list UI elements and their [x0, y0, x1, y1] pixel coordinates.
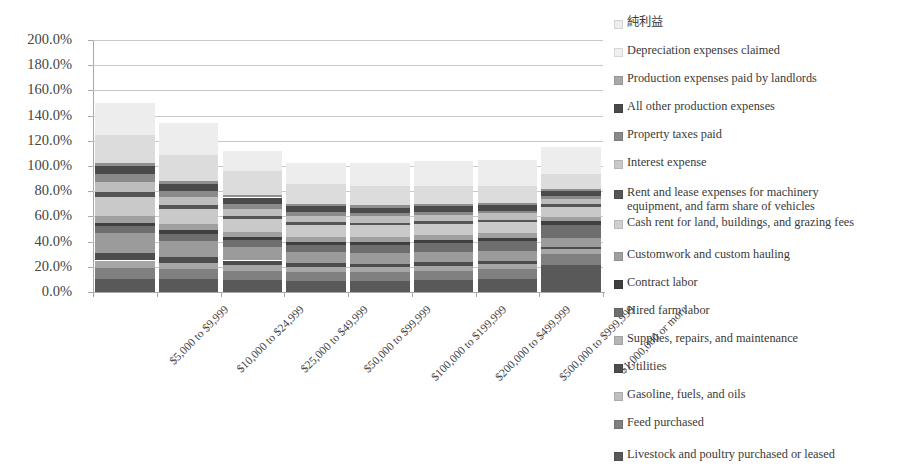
bar-stack[interactable] — [350, 40, 409, 292]
bar-stack[interactable] — [478, 40, 537, 292]
bar-segment[interactable] — [95, 233, 154, 253]
bar-segment[interactable] — [159, 191, 218, 197]
bar-segment[interactable] — [159, 205, 218, 209]
bar-segment[interactable] — [95, 216, 154, 223]
bar-segment[interactable] — [286, 252, 345, 263]
bar-segment[interactable] — [350, 253, 409, 264]
bar-segment[interactable] — [223, 216, 282, 219]
bar-segment[interactable] — [286, 206, 345, 212]
bar-segment[interactable] — [350, 264, 409, 267]
bar-segment[interactable] — [350, 186, 409, 205]
bar-segment[interactable] — [414, 262, 473, 265]
bar-segment[interactable] — [350, 213, 409, 216]
bar-segment[interactable] — [478, 269, 537, 279]
bar-segment[interactable] — [414, 224, 473, 235]
bar-segment[interactable] — [95, 253, 154, 261]
bar-segment[interactable] — [95, 103, 154, 135]
legend-item[interactable]: Utilities — [614, 360, 667, 374]
bar-segment[interactable] — [159, 279, 218, 292]
bar-segment[interactable] — [414, 266, 473, 271]
bar-segment[interactable] — [478, 211, 537, 214]
bar-segment[interactable] — [286, 272, 345, 281]
bar-segment[interactable] — [223, 280, 282, 292]
bar-segment[interactable] — [414, 161, 473, 186]
bar-stack[interactable] — [541, 40, 600, 292]
bar-segment[interactable] — [95, 261, 154, 269]
bar-segment[interactable] — [414, 204, 473, 207]
bar-segment[interactable] — [286, 184, 345, 204]
bar-segment[interactable] — [95, 197, 154, 216]
bar-segment[interactable] — [286, 237, 345, 242]
bar-segment[interactable] — [286, 212, 345, 216]
legend-item[interactable]: Supplies, repairs, and maintenance — [614, 332, 798, 346]
bar-segment[interactable] — [95, 268, 154, 279]
bar-segment[interactable] — [159, 209, 218, 224]
bar-segment[interactable] — [478, 264, 537, 269]
bar-segment[interactable] — [541, 249, 600, 253]
bar-segment[interactable] — [223, 232, 282, 238]
bar-segment[interactable] — [95, 192, 154, 197]
bar-segment[interactable] — [478, 222, 537, 233]
bar-segment[interactable] — [350, 272, 409, 281]
bar-stack[interactable] — [286, 40, 345, 292]
legend-item[interactable]: Interest expense — [614, 156, 707, 170]
legend-item[interactable]: Rent and lease expenses for machinery eq… — [614, 186, 819, 213]
bar-segment[interactable] — [286, 222, 345, 225]
bar-segment[interactable] — [350, 237, 409, 242]
bar-segment[interactable] — [159, 241, 218, 257]
bar-segment[interactable] — [159, 263, 218, 269]
bar-segment[interactable] — [541, 199, 600, 205]
bar-segment[interactable] — [286, 267, 345, 272]
bar-segment[interactable] — [414, 206, 473, 212]
bar-segment[interactable] — [286, 242, 345, 245]
legend-item[interactable]: Depreciation expenses claimed — [614, 44, 780, 58]
legend-item[interactable]: Hired farm labor — [614, 304, 710, 318]
bar-segment[interactable] — [414, 186, 473, 204]
bar-segment[interactable] — [414, 240, 473, 243]
bar-segment[interactable] — [159, 230, 218, 234]
bar-segment[interactable] — [286, 263, 345, 267]
bar-segment[interactable] — [414, 280, 473, 292]
bar-segment[interactable] — [159, 224, 218, 230]
bar-stack[interactable] — [223, 40, 282, 292]
bar-segment[interactable] — [223, 247, 282, 260]
bar-segment[interactable] — [159, 269, 218, 279]
bar-segment[interactable] — [223, 171, 282, 195]
bar-segment[interactable] — [478, 205, 537, 211]
bar-segment[interactable] — [223, 219, 282, 232]
bar-segment[interactable] — [350, 163, 409, 186]
legend-item[interactable]: Production expenses paid by landlords — [614, 72, 817, 86]
legend-item[interactable]: Property taxes paid — [614, 128, 722, 142]
bar-segment[interactable] — [478, 279, 537, 292]
bar-segment[interactable] — [414, 215, 473, 221]
bar-segment[interactable] — [95, 182, 154, 192]
bar-segment[interactable] — [159, 234, 218, 241]
bar-stack[interactable] — [159, 40, 218, 292]
bar-segment[interactable] — [350, 216, 409, 222]
bar-segment[interactable] — [541, 196, 600, 199]
bar-segment[interactable] — [286, 245, 345, 252]
legend-item[interactable]: Gasoline, fuels, and oils — [614, 388, 746, 402]
bar-segment[interactable] — [223, 261, 282, 265]
bar-segment[interactable] — [541, 174, 600, 189]
bar-segment[interactable] — [541, 189, 600, 192]
bar-segment[interactable] — [350, 245, 409, 253]
bar-segment[interactable] — [414, 243, 473, 252]
bar-segment[interactable] — [159, 123, 218, 155]
bar-segment[interactable] — [541, 191, 600, 196]
bar-segment[interactable] — [223, 265, 282, 271]
legend-item[interactable]: All other production expenses — [614, 100, 775, 114]
bar-segment[interactable] — [478, 213, 537, 219]
bar-segment[interactable] — [223, 195, 282, 198]
bar-segment[interactable] — [223, 237, 282, 240]
bar-segment[interactable] — [541, 207, 600, 217]
bar-segment[interactable] — [478, 261, 537, 264]
bar-segment[interactable] — [541, 147, 600, 173]
bar-segment[interactable] — [541, 204, 600, 207]
bar-segment[interactable] — [414, 252, 473, 262]
bar-stack[interactable] — [95, 40, 154, 292]
legend-item[interactable]: Livestock and poultry purchased or lease… — [614, 448, 835, 462]
bar-segment[interactable] — [541, 225, 600, 238]
bar-segment[interactable] — [350, 242, 409, 245]
bar-segment[interactable] — [541, 247, 600, 250]
